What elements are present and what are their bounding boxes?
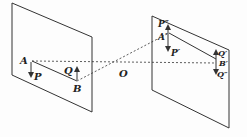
label-p2: P″	[157, 19, 169, 29]
label-a2: A′	[157, 32, 168, 42]
label-o: O	[119, 68, 128, 79]
label-q2: Q″	[217, 69, 228, 79]
label-p: P	[33, 71, 42, 82]
label-a: A	[19, 55, 28, 66]
label-q1: Q′	[218, 48, 228, 58]
label-q: Q	[64, 65, 73, 76]
diagram-canvas: A P Q B O P″ A′ P′ Q′ B′ Q″	[0, 0, 247, 137]
ray-a-to-b2	[32, 61, 216, 63]
projection-diagram: A P Q B O P″ A′ P′ Q′ B′ Q″	[0, 0, 247, 137]
label-b2: B′	[218, 58, 229, 68]
label-p1: P′	[170, 48, 181, 58]
label-b: B	[72, 83, 81, 94]
